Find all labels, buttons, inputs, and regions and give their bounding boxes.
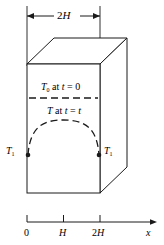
- initial-temperature-label: T0 at t = 0: [41, 82, 80, 92]
- box-right-face: [100, 38, 127, 193]
- slab-temperature-figure: [0, 0, 164, 245]
- x-axis-tick-label-0: 0: [24, 228, 29, 238]
- dimension-label-2h: 2H: [57, 10, 70, 21]
- transient-temperature-label: T at t = t: [47, 106, 81, 116]
- x-axis-arrowhead-icon: [150, 219, 157, 224]
- dimension-arrowhead-left-icon: [27, 13, 34, 19]
- wall-point-left: [26, 153, 31, 158]
- x-axis-name-label: x: [146, 228, 150, 238]
- wall-temperature-label-right: T1: [104, 146, 113, 156]
- dimension-arrowhead-right-icon: [93, 13, 100, 19]
- x-axis-tick-label-2h: 2H: [92, 228, 104, 238]
- wall-temperature-label-left: T1: [6, 146, 15, 156]
- x-axis-tick-label-h: H: [59, 228, 66, 238]
- wall-point-right: [97, 153, 102, 158]
